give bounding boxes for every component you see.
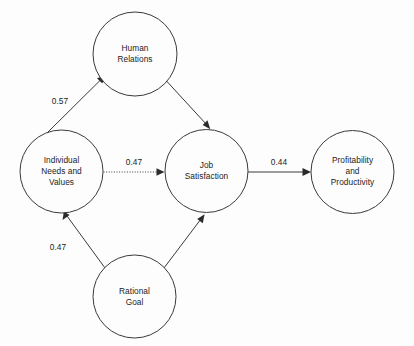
node-circle-human-relations[interactable] [93, 12, 177, 96]
diagram-canvas: Human Relations Individual Needs and Val… [0, 0, 414, 346]
edge-line-human-job [167, 81, 208, 125]
node-group [20, 12, 394, 338]
edge-line-needs-human [48, 79, 102, 133]
node-circle-job-satisfaction[interactable] [165, 130, 248, 213]
diagram-graphics [0, 0, 414, 346]
node-circle-rational-goal[interactable] [93, 255, 176, 338]
edge-human-relations-to-job-satisfaction [167, 81, 211, 129]
edge-rational-goal-to-job-satisfaction [164, 214, 205, 268]
edge-needs-to-job-satisfaction [104, 168, 165, 175]
edge-rational-goal-to-needs [63, 212, 105, 269]
arrow-head-job-satisfaction-left [157, 168, 165, 175]
edge-line-goal-needs [67, 216, 105, 268]
node-circle-profitability-and-productivity[interactable] [311, 131, 394, 214]
edge-needs-to-human-relations [48, 75, 106, 132]
edge-line-goal-job [164, 219, 201, 268]
node-circle-individual-needs-and-values[interactable] [20, 130, 103, 213]
arrow-head-profitability [303, 168, 312, 176]
edge-job-satisfaction-to-profitability [248, 168, 311, 176]
